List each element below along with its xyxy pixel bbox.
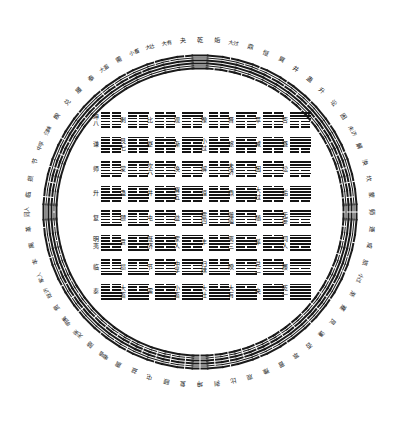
square-hexagram-label: 观: [173, 117, 180, 123]
square-hexagram[interactable]: 震四: [200, 210, 230, 226]
square-hexagram[interactable]: 师: [92, 161, 122, 177]
square-hexagram[interactable]: 遯: [281, 137, 311, 153]
square-hexagram[interactable]: 恒: [200, 186, 230, 202]
square-hexagram[interactable]: 复: [92, 210, 122, 226]
circle-hexagram-label: 履: [74, 86, 83, 95]
circle-hexagram-label: 革: [25, 226, 32, 233]
square-hexagram[interactable]: 涣: [173, 161, 203, 177]
square-hexagram[interactable]: 噬嗑: [227, 210, 257, 226]
square-hexagram[interactable]: 颐: [119, 210, 149, 226]
square-hexagram[interactable]: 贲: [119, 235, 149, 251]
square-hexagram[interactable]: 谦: [92, 137, 122, 153]
circle-hexagram-label: 小过: [354, 272, 363, 283]
circle-hexagram-label: 大壮: [144, 43, 155, 51]
square-hexagram[interactable]: 咸: [254, 137, 284, 153]
square-hexagram[interactable]: 艮七: [119, 137, 149, 153]
square-hexagram[interactable]: 大有: [227, 284, 257, 300]
square-hexagram[interactable]: 夬: [254, 284, 284, 300]
yang-line: [290, 284, 311, 286]
square-hexagram[interactable]: 革: [254, 235, 284, 251]
yin-line: [290, 121, 311, 123]
square-hexagram[interactable]: 益: [173, 210, 203, 226]
square-hexagram-label: 坤八: [92, 114, 99, 126]
square-hexagram[interactable]: 随: [254, 210, 284, 226]
square-hexagram[interactable]: 丰: [200, 235, 230, 251]
square-hexagram[interactable]: 渐: [173, 137, 203, 153]
yang-line: [290, 137, 311, 139]
square-hexagram[interactable]: 大壮: [200, 284, 230, 300]
square-hexagram[interactable]: 同人: [281, 235, 311, 251]
square-hexagram[interactable]: 乾一: [281, 284, 311, 300]
square-hexagram[interactable]: 蛊: [119, 186, 149, 202]
square-hexagram[interactable]: 大畜: [119, 284, 149, 300]
yang-line: [290, 292, 311, 294]
square-hexagram[interactable]: 鼎: [227, 186, 257, 202]
square-hexagram-label: 噬嗑: [227, 212, 234, 224]
square-hexagram-label: 比: [146, 117, 153, 123]
circle-hexagram-label: 师: [369, 209, 375, 215]
square-hexagram[interactable]: 升: [92, 186, 122, 202]
square-hexagram[interactable]: 屯: [146, 210, 176, 226]
circle-hexagram-label: 遯: [368, 226, 375, 233]
square-hexagram[interactable]: 归妹: [200, 259, 230, 275]
yang-line: [48, 204, 50, 221]
square-hexagram[interactable]: 明夷: [92, 235, 122, 251]
square-hexagram-label: 蹇: [146, 141, 153, 147]
circle-hexagram-label: 中孚: [37, 141, 46, 152]
yin-line: [290, 175, 311, 177]
square-hexagram[interactable]: 比: [146, 112, 176, 128]
square-hexagram[interactable]: 小过: [200, 137, 230, 153]
circle-hexagram-label: 家人: [37, 272, 46, 283]
square-hexagram[interactable]: 中孚: [173, 259, 203, 275]
square-hexagram[interactable]: 困: [254, 161, 284, 177]
square-hexagram[interactable]: 未济: [227, 161, 257, 177]
fuxi-diagram: 乾姤大过鼎恒巽井蛊升讼困未济解涣坎蒙师遯咸旅小过渐蹇艮谦否萃晋豫观比剥坤复颐屯益…: [0, 0, 400, 424]
square-hexagram[interactable]: 否: [281, 112, 311, 128]
yang-line: [290, 118, 311, 120]
square-hexagram[interactable]: 坤八: [92, 112, 121, 128]
square-hexagram[interactable]: 睽: [227, 259, 257, 275]
square-hexagram[interactable]: 需: [146, 284, 176, 300]
square-hexagram[interactable]: 萃: [254, 112, 284, 128]
square-hexagram[interactable]: 巽五: [173, 186, 203, 202]
square-hexagram[interactable]: 小畜: [173, 284, 203, 300]
yang-line: [290, 186, 311, 188]
square-hexagram[interactable]: 大过: [254, 186, 284, 202]
square-hexagram[interactable]: 临: [92, 259, 122, 275]
yang-line: [290, 210, 311, 212]
square-hexagram[interactable]: 豫: [200, 112, 230, 128]
square-hexagram[interactable]: 泰: [92, 284, 122, 300]
square-hexagram[interactable]: 无妄: [281, 210, 311, 226]
square-hexagram[interactable]: 兑二: [254, 259, 284, 275]
circle-hexagram-label: 噬嗑: [99, 350, 110, 360]
square-hexagram[interactable]: 解: [200, 161, 230, 177]
square-hexagram[interactable]: 既济: [146, 235, 176, 251]
circle-hexagram-label: 谦: [317, 329, 326, 338]
yin-line: [290, 222, 311, 224]
square-hexagram[interactable]: 姤: [281, 186, 311, 202]
yang-line: [290, 259, 311, 261]
square-hexagram[interactable]: 晋: [227, 112, 257, 128]
circle-hexagram-label: 萃: [291, 351, 300, 360]
square-hexagram[interactable]: 讼: [281, 161, 311, 177]
square-hexagram-label: 升: [92, 190, 99, 196]
square-hexagram-label: 咸: [254, 141, 261, 147]
square-hexagram-label: 井: [146, 190, 153, 196]
square-hexagram[interactable]: 节: [146, 259, 176, 275]
square-hexagram[interactable]: 离三: [227, 235, 257, 251]
square-hexagram[interactable]: 家人: [173, 235, 203, 251]
square-hexagram[interactable]: 坎六: [146, 161, 176, 177]
square-hexagram[interactable]: 蒙: [119, 161, 149, 177]
circle-hexagram-label: 大过: [228, 40, 239, 47]
square-hexagram[interactable]: 剥: [119, 112, 149, 128]
square-hexagram[interactable]: 履: [281, 259, 311, 275]
square-hexagram[interactable]: 损: [119, 259, 149, 275]
square-hexagram[interactable]: 蹇: [146, 137, 176, 153]
hexagram-glyph: [290, 259, 311, 275]
square-hexagram-label: 损: [119, 264, 126, 270]
square-hexagram[interactable]: 井: [146, 186, 176, 202]
circle-hexagram-label: 大有: [161, 40, 172, 47]
hexagram-glyph: [290, 112, 311, 128]
square-hexagram[interactable]: 观: [173, 112, 203, 128]
square-hexagram[interactable]: 旅: [227, 137, 257, 153]
